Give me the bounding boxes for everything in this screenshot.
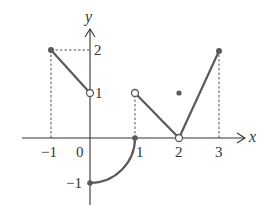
segment-neg1-to-0 <box>51 50 90 93</box>
arc-0-to-1 <box>90 138 135 183</box>
closed-point-3-2 <box>216 48 222 54</box>
segment-2-to-3 <box>179 51 219 138</box>
y-tick-neg1: −1 <box>66 175 82 191</box>
segment-1-to-2 <box>135 93 179 138</box>
x-tick-3: 3 <box>215 144 223 160</box>
labels: y x 2 1 −1 −1 0 1 2 3 <box>41 8 256 191</box>
piecewise-function-graph: y x 2 1 −1 −1 0 1 2 3 <box>0 0 271 214</box>
y-tick-1: 1 <box>95 85 103 101</box>
open-point-1-1 <box>132 90 139 97</box>
origin-label: 0 <box>76 144 84 160</box>
function-curves <box>51 50 219 183</box>
y-axis-label: y <box>83 8 93 26</box>
x-tick-neg1: −1 <box>41 144 57 160</box>
open-point-0-1 <box>87 90 94 97</box>
x-tick-2: 2 <box>175 144 183 160</box>
closed-point-0-neg1 <box>87 180 93 186</box>
closed-point-1-0 <box>132 135 138 141</box>
x-axis-label: x <box>248 128 256 145</box>
endpoints <box>48 47 222 186</box>
isolated-point-2-1 <box>176 90 181 95</box>
x-tick-1: 1 <box>136 144 144 160</box>
closed-point-neg1-2 <box>48 47 54 53</box>
open-point-2-0 <box>176 135 183 142</box>
y-tick-2: 2 <box>94 42 102 58</box>
